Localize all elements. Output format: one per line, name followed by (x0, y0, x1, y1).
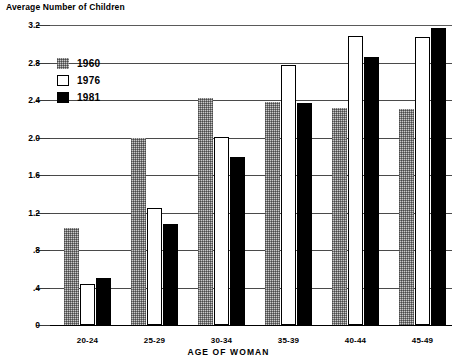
bar-1981-25-29 (163, 224, 178, 325)
legend: 1960 1976 1981 (57, 56, 100, 107)
y-axis-tick-label: 1.6 (6, 171, 40, 180)
bar-1976-30-34 (214, 137, 229, 325)
legend-item-1976: 1976 (57, 73, 100, 88)
legend-swatch-1981-icon (57, 92, 69, 103)
bar-1976-35-39 (281, 65, 296, 325)
legend-label-1960: 1960 (77, 58, 100, 69)
bar-1960-35-39 (265, 102, 280, 325)
bar-group (184, 25, 251, 325)
bar-1981-20-24 (96, 278, 111, 325)
bar-1976-45-49 (415, 37, 430, 325)
y-axis-tick-label: 2.8 (6, 59, 40, 68)
x-axis-tick-label-20-24: 20-24 (58, 336, 118, 345)
x-axis-line (50, 325, 452, 326)
bar-1960-40-44 (332, 108, 347, 326)
y-axis-tick-label: .8 (6, 246, 40, 255)
legend-item-1981: 1981 (57, 90, 100, 105)
y-axis-tick-label: 2.0 (6, 134, 40, 143)
x-axis-title: AGE OF WOMAN (0, 347, 457, 357)
legend-swatch-1960-icon (57, 58, 69, 69)
scan-edge-artifact (0, 358, 457, 364)
legend-item-1960: 1960 (57, 56, 100, 71)
y-axis-tick-label: 0 (6, 321, 40, 330)
bar-group (385, 25, 452, 325)
bar-1960-25-29 (131, 138, 146, 326)
y-axis-tick-label: 2.4 (6, 96, 40, 105)
chart-title: Average Number of Children (6, 2, 125, 12)
y-axis-tick-label: 3.2 (6, 21, 40, 30)
legend-label-1981: 1981 (77, 92, 100, 103)
legend-label-1976: 1976 (77, 75, 100, 86)
plot-area (50, 25, 452, 325)
bar-1976-20-24 (80, 284, 95, 325)
bar-1981-30-34 (230, 157, 245, 325)
x-axis-tick-label-30-34: 30-34 (192, 336, 252, 345)
bar-1981-45-49 (431, 28, 446, 325)
x-axis-tick-label-35-39: 35-39 (259, 336, 319, 345)
bar-1976-40-44 (348, 36, 363, 325)
bar-group (117, 25, 184, 325)
x-axis-tick-label-40-44: 40-44 (326, 336, 386, 345)
bar-group (318, 25, 385, 325)
x-axis-tick-label-45-49: 45-49 (393, 336, 453, 345)
bar-1981-35-39 (297, 103, 312, 325)
x-axis-tick-label-25-29: 25-29 (125, 336, 185, 345)
bar-chart-figure: Average Number of Children 0.4.81.21.62.… (0, 0, 457, 364)
bar-1981-40-44 (364, 57, 379, 325)
bar-1960-20-24 (64, 228, 79, 326)
legend-swatch-1976-icon (57, 75, 69, 86)
y-axis-tick-label: 1.2 (6, 209, 40, 218)
y-axis-tick-label: .4 (6, 284, 40, 293)
bar-1960-45-49 (399, 109, 414, 325)
bar-group (251, 25, 318, 325)
bar-1976-25-29 (147, 208, 162, 325)
bar-1960-30-34 (198, 98, 213, 325)
